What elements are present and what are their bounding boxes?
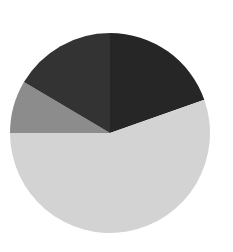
pie-chart-canvas xyxy=(0,0,233,252)
pie-chart xyxy=(0,0,233,252)
